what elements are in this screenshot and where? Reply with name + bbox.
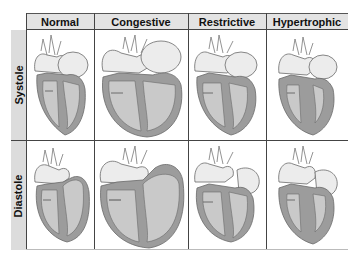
row-header-diastole: Diastole (11, 141, 26, 250)
heart-hypertrophic-diastole (267, 142, 348, 249)
heart-restrictive-systole (189, 31, 266, 139)
column-label: Congestive (111, 16, 170, 28)
row-label: Diastole (13, 174, 25, 217)
heart-congestive-diastole (95, 142, 188, 249)
column-label: Restrictive (199, 16, 255, 28)
row-divider (11, 140, 348, 141)
column-header-congestive: Congestive (94, 13, 188, 30)
row-header-systole: Systole (11, 30, 26, 140)
heart-normal-diastole (27, 142, 94, 249)
column-header-restrictive: Restrictive (188, 13, 266, 30)
column-label: Normal (41, 16, 79, 28)
heart-congestive-systole (95, 31, 188, 139)
column-label: Hypertrophic (273, 16, 341, 28)
heart-comparison-table: Normal Congestive Restrictive Hypertroph… (11, 13, 348, 250)
column-header-normal: Normal (26, 13, 94, 30)
heart-normal-systole (27, 31, 94, 139)
column-header-hypertrophic: Hypertrophic (266, 13, 348, 30)
bottom-border (26, 249, 348, 250)
heart-restrictive-diastole (189, 142, 266, 249)
row-label: Systole (13, 65, 25, 104)
heart-hypertrophic-systole (267, 31, 348, 139)
